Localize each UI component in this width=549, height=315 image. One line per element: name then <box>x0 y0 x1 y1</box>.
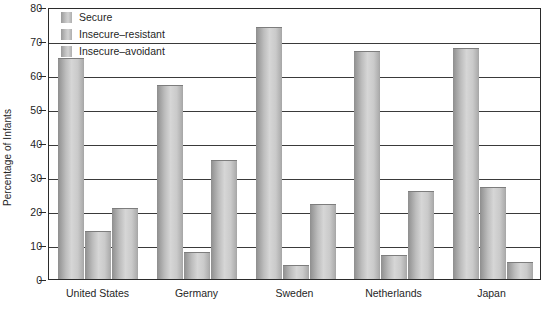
y-tick-label: 50 <box>8 105 42 115</box>
bar-chart: Percentage of Infants 01020304050607080 … <box>0 0 549 315</box>
bar <box>507 262 533 279</box>
bar <box>310 204 336 279</box>
legend-label: Insecure–resistant <box>79 29 165 40</box>
bar <box>58 58 84 279</box>
y-tick-label: 80 <box>8 3 42 13</box>
legend-swatch-icon <box>61 12 72 23</box>
legend-label: Secure <box>79 12 112 23</box>
bar <box>112 208 138 279</box>
bar <box>157 85 183 279</box>
legend-item: Insecure–resistant <box>61 29 165 40</box>
legend-swatch-icon <box>61 29 72 40</box>
bar <box>283 265 309 279</box>
bar <box>211 160 237 279</box>
legend-item: Secure <box>61 12 165 23</box>
x-tick-label: Sweden <box>245 286 344 300</box>
x-axis: United StatesGermanySwedenNetherlandsJap… <box>48 286 541 306</box>
x-tick-label: Japan <box>442 286 541 300</box>
bar <box>354 51 380 279</box>
legend-swatch-icon <box>61 46 72 57</box>
y-tick-label: 20 <box>8 207 42 217</box>
y-tick-label: 70 <box>8 37 42 47</box>
y-tick-label: 30 <box>8 173 42 183</box>
legend-label: Insecure–avoidant <box>79 46 165 57</box>
y-axis: 01020304050607080 <box>0 8 42 280</box>
x-tick-label: Germany <box>147 286 246 300</box>
y-tick-label: 40 <box>8 139 42 149</box>
bar <box>408 191 434 279</box>
bar <box>85 231 111 279</box>
bar <box>480 187 506 279</box>
bar <box>256 27 282 279</box>
legend: SecureInsecure–resistantInsecure–avoidan… <box>61 12 165 57</box>
y-tick-label: 10 <box>8 241 42 251</box>
legend-item: Insecure–avoidant <box>61 46 165 57</box>
x-tick-label: Netherlands <box>344 286 443 300</box>
bar <box>381 255 407 279</box>
bar <box>453 48 479 279</box>
y-tick-label: 60 <box>8 71 42 81</box>
y-tick-label: 0 <box>8 275 42 285</box>
x-tick-label: United States <box>48 286 147 300</box>
bar <box>184 252 210 279</box>
